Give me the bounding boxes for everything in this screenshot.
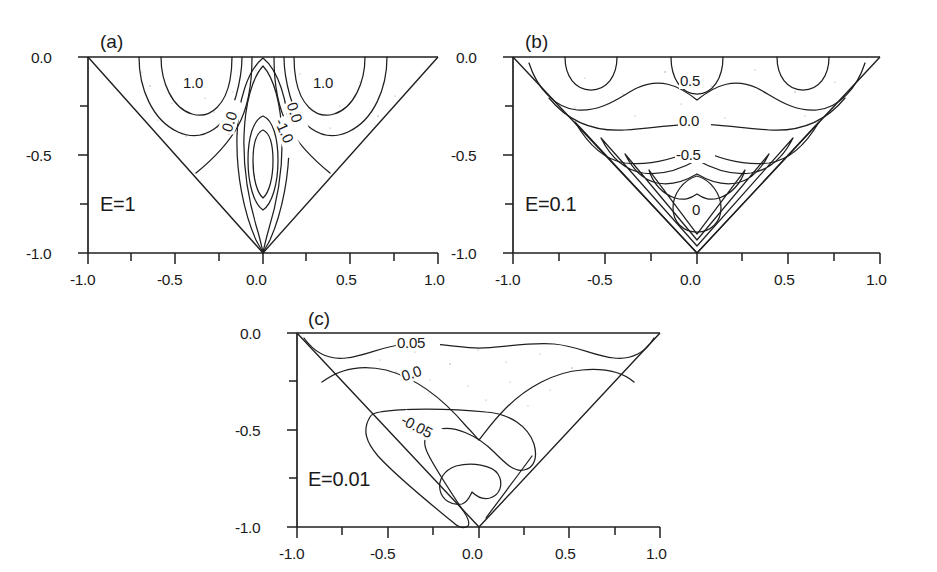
- panel-c-label-0p05: 0.05: [397, 334, 425, 351]
- panel-c-xtick-3: 0.5: [555, 545, 575, 562]
- panel-a-ytick-0: 0.0: [31, 49, 52, 66]
- panel-b: (b) 0.0 -0.5 -1.0: [425, 8, 937, 293]
- panel-b-contour-label-neg0p5: -0.5: [675, 146, 715, 163]
- panel-a-xtick-1: -0.5: [157, 271, 182, 288]
- panel-a-label-1p0-left: 1.0: [183, 74, 203, 91]
- panel-c-contour-label-neg0p05: -0.05: [398, 410, 451, 449]
- panel-a-xtick-3: 0.5: [336, 271, 356, 288]
- panel-b-xtick-2: 0.0: [680, 271, 701, 288]
- panel-a-plot: (a) 0.0 -0.5 -1.0: [0, 8, 470, 293]
- panel-c-contour-apex-cell: [440, 464, 501, 504]
- panel-c-xtick-2: 0.0: [462, 545, 483, 562]
- panel-b-contour-label-zero-center: 0: [690, 200, 705, 218]
- panel-b-contour-pos-left: [565, 57, 617, 90]
- panel-c-ytick-2: -1.0: [235, 519, 261, 536]
- panel-c-xtick-1: -0.5: [370, 545, 395, 562]
- panel-a-contour-label-right-1: 1.0: [312, 74, 345, 91]
- panel-a-ytick-2: -1.0: [26, 245, 52, 262]
- panel-b-ytick-2: -1.0: [451, 245, 477, 262]
- panel-c-contour-0p0: [322, 368, 634, 440]
- panel-b-plot: (b) 0.0 -0.5 -1.0: [425, 8, 937, 293]
- panel-b-contour-neg-mid2: [625, 154, 769, 240]
- panel-a-label-1p0-right: 1.0: [313, 74, 333, 91]
- panel-c-contour-label-0p0: 0.0: [398, 358, 436, 385]
- panel-c-xtick-4: 1.0: [646, 545, 667, 562]
- panel-b-label-neg0p5: -0.5: [676, 146, 701, 163]
- panel-b-xtick-3: 0.5: [774, 271, 794, 288]
- panel-b-x-ticks: [513, 253, 880, 264]
- panel-b-label-0: 0: [692, 201, 700, 218]
- panel-a-xtick-0: -1.0: [70, 271, 96, 288]
- panel-a-xtick-2: 0.0: [246, 271, 267, 288]
- panel-b-label-0p0: 0.0: [679, 112, 699, 129]
- figure-container: (a) 0.0 -0.5 -1.0: [0, 0, 937, 572]
- panel-a-contour-center-inner2: [253, 130, 273, 198]
- panel-c-ytick-1: -0.5: [235, 422, 260, 439]
- panel-a-letter: (a): [100, 31, 123, 52]
- panel-c-domain-boundary: [297, 333, 660, 527]
- panel-b-label-0p5: 0.5: [680, 72, 700, 89]
- panel-c-letter: (c): [308, 308, 330, 329]
- panel-c-contour-0p05: [304, 338, 654, 358]
- panel-c-xtick-0: -1.0: [279, 545, 305, 562]
- panel-a-y-ticks: [78, 57, 88, 253]
- panel-a-ytick-1: -0.5: [26, 147, 51, 164]
- panel-b-contour-label-0p0: 0.0: [678, 112, 711, 129]
- panel-a-contour-label-left-1: 1.0: [182, 74, 215, 91]
- panel-c: (c) 0.0 -0.5 -1.0: [210, 290, 710, 572]
- panel-a-x-ticks: [88, 253, 438, 264]
- panel-b-parameter-label: E=0.1: [525, 193, 576, 215]
- panel-b-y-ticks: [503, 57, 513, 253]
- panel-a-parameter-label: E=1: [100, 193, 135, 215]
- panel-c-ytick-0: 0.0: [240, 325, 261, 342]
- panel-b-contour-label-0p5: 0.5: [679, 72, 707, 89]
- panel-a: (a) 0.0 -0.5 -1.0: [0, 8, 470, 293]
- panel-b-contour-pos-right: [777, 57, 829, 90]
- panel-a-domain-boundary: [88, 57, 438, 253]
- panel-c-x-ticks: [297, 527, 660, 538]
- panel-b-ytick-0: 0.0: [456, 49, 477, 66]
- panel-c-parameter-label: E=0.01: [308, 468, 370, 490]
- panel-c-contour-label-0p05: 0.05: [396, 334, 440, 351]
- panel-c-plot: (c) 0.0 -0.5 -1.0: [210, 290, 710, 572]
- panel-b-xtick-0: -1.0: [495, 271, 521, 288]
- panel-b-ytick-1: -0.5: [451, 147, 476, 164]
- panel-b-letter: (b): [525, 31, 548, 52]
- panel-b-xtick-4: 1.0: [866, 271, 887, 288]
- panel-b-xtick-1: -0.5: [587, 271, 612, 288]
- panel-c-y-ticks: [287, 333, 297, 527]
- panel-a-contour-label-zero-left: 0.0: [218, 98, 244, 135]
